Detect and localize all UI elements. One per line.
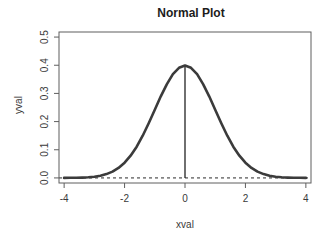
y-axis-tick-label: 0.2 [39,114,50,128]
y-axis-tick-label: 0.0 [39,171,50,185]
y-axis-tick-label: 0.3 [39,86,50,100]
y-axis-tick-label: 0.1 [39,142,50,156]
plot-canvas: -4-20240.00.10.20.30.40.5Normal Plot xva… [0,0,328,243]
x-axis-tick-label: -2 [120,193,129,204]
y-axis-tick-label: 0.5 [39,30,50,44]
x-axis-label: xval [176,219,194,230]
x-axis-tick-label: 4 [303,193,309,204]
normal-plot-figure: -4-20240.00.10.20.30.40.5Normal Plot xva… [0,0,328,243]
chart-title: Normal Plot [157,6,224,20]
x-axis-tick-label: 2 [243,193,249,204]
x-axis-tick-label: 0 [182,193,188,204]
y-axis-label: yval [13,96,24,114]
x-axis-tick-label: -4 [60,193,69,204]
y-axis-tick-label: 0.4 [39,58,50,72]
